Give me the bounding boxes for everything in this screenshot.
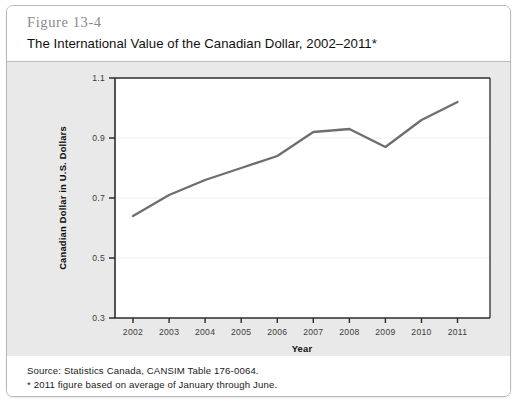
y-tick-label: 0.3 xyxy=(92,313,105,323)
figure-number: Figure 13-4 xyxy=(27,13,510,31)
chart-panel: 0.30.50.70.91.1 200220032004200520062007… xyxy=(7,61,511,357)
y-tick-label: 1.1 xyxy=(92,73,105,83)
y-tick-label: 0.5 xyxy=(92,253,105,263)
source-note: Source: Statistics Canada, CANSIM Table … xyxy=(27,364,510,378)
y-tick-label: 0.9 xyxy=(92,133,105,143)
footnote-asterisk: * 2011 figure based on average of Januar… xyxy=(27,378,510,392)
figure-footer: Source: Statistics Canada, CANSIM Table … xyxy=(7,356,510,397)
x-tick-label: 2002 xyxy=(123,327,143,337)
y-axis-title: Canadian Dollar in U.S. Dollars xyxy=(57,126,68,270)
x-tick-label: 2003 xyxy=(159,327,179,337)
x-tick-label: 2010 xyxy=(411,327,431,337)
x-axis-ticks: 2002200320042005200620072008200920102011 xyxy=(123,318,468,337)
x-axis-title: Year xyxy=(292,343,313,354)
x-tick-label: 2004 xyxy=(195,327,215,337)
x-tick-label: 2009 xyxy=(375,327,395,337)
figure-header: Figure 13-4 The International Value of t… xyxy=(7,6,510,61)
x-tick-label: 2007 xyxy=(303,327,323,337)
x-tick-label: 2011 xyxy=(448,327,468,337)
x-tick-label: 2008 xyxy=(339,327,359,337)
y-tick-label: 0.7 xyxy=(92,193,105,203)
y-axis-ticks: 0.30.50.70.91.1 xyxy=(92,73,115,323)
figure-card: Figure 13-4 The International Value of t… xyxy=(6,5,511,397)
line-chart: 0.30.50.70.91.1 200220032004200520062007… xyxy=(7,62,511,356)
figure-title: The International Value of the Canadian … xyxy=(27,34,510,54)
x-tick-label: 2005 xyxy=(231,327,251,337)
x-tick-label: 2006 xyxy=(267,327,287,337)
